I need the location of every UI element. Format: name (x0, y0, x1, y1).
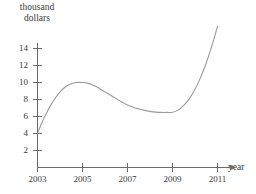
y-tick-label-4: 4 (12, 128, 28, 138)
y-tick-label-2: 2 (12, 145, 28, 155)
y-tick-label-10: 10 (12, 77, 28, 87)
x-tick-label-2011: 2011 (201, 174, 235, 184)
plot-area (0, 0, 256, 194)
x-axis-arrow-icon (230, 165, 236, 171)
x-tick-label-2003: 2003 (21, 174, 55, 184)
data-series-line (38, 26, 218, 133)
x-tick-label-2005: 2005 (66, 174, 100, 184)
y-tick-label-14: 14 (12, 43, 28, 53)
y-tick-label-6: 6 (12, 111, 28, 121)
y-tick-label-8: 8 (12, 94, 28, 104)
x-tick-label-2009: 2009 (156, 174, 190, 184)
x-tick-label-2007: 2007 (111, 174, 145, 184)
line-chart: thousand dollars year 2 4 6 8 (0, 0, 256, 194)
y-tick-label-12: 12 (12, 60, 28, 70)
